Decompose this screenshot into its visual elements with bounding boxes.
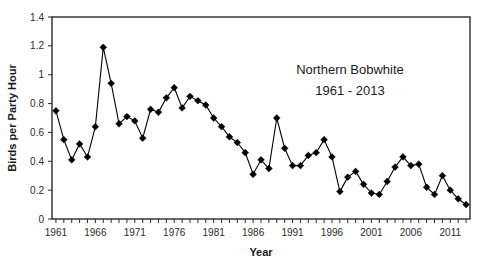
data-point-marker <box>131 117 138 124</box>
y-axis-tick-label: 0.8 <box>30 98 44 109</box>
data-point-marker <box>84 154 91 161</box>
data-point-marker <box>439 172 446 179</box>
data-point-marker <box>155 109 162 116</box>
data-point-marker <box>289 162 296 169</box>
y-axis-tick-label: 0 <box>38 214 44 225</box>
plot-area-frame <box>52 17 470 219</box>
y-axis-tick-label: 0.2 <box>30 185 44 196</box>
data-point-marker <box>60 136 67 143</box>
x-axis-tick-label: 1976 <box>163 227 186 238</box>
data-point-marker <box>108 80 115 87</box>
chart-container: 00.20.40.60.811.21.4 1961196619711976198… <box>0 0 488 267</box>
y-axis-title: Birds per Party Hour <box>6 63 18 171</box>
x-axis-title: Year <box>249 246 273 258</box>
data-point-marker <box>313 149 320 156</box>
data-point-marker <box>139 135 146 142</box>
x-axis-tick-label: 2001 <box>360 227 383 238</box>
data-point-marker <box>273 115 280 122</box>
x-axis-tick-label: 1966 <box>84 227 107 238</box>
series-markers <box>53 44 470 208</box>
data-point-marker <box>384 178 391 185</box>
bobwhite-line-chart: 00.20.40.60.811.21.4 1961196619711976198… <box>0 0 488 267</box>
data-point-marker <box>179 105 186 112</box>
x-axis-tick-label: 2011 <box>440 227 462 238</box>
annotation-year-range: 1961 - 2013 <box>315 83 384 98</box>
data-point-marker <box>329 154 336 161</box>
data-point-marker <box>195 97 202 104</box>
data-point-marker <box>250 171 257 178</box>
y-axis-tick-label: 1.2 <box>30 40 44 51</box>
data-point-marker <box>68 156 75 163</box>
data-point-marker <box>336 188 343 195</box>
y-axis-tick-label: 1 <box>38 69 44 80</box>
x-axis-tick-label: 2006 <box>400 227 423 238</box>
data-point-marker <box>76 141 83 148</box>
data-point-marker <box>321 136 328 143</box>
y-axis-tick-labels: 00.20.40.60.811.21.4 <box>30 12 44 225</box>
x-axis-tick-labels: 1961196619711976198119861991199620012006… <box>45 227 462 238</box>
data-point-marker <box>147 106 154 113</box>
data-point-marker <box>281 145 288 152</box>
x-axis-tick-label: 1991 <box>281 227 304 238</box>
x-axis-tick-label: 1971 <box>124 227 147 238</box>
x-axis-tick-label: 1981 <box>203 227 226 238</box>
data-point-marker <box>376 191 383 198</box>
x-axis-tick-label: 1996 <box>321 227 344 238</box>
annotation-species-name: Northern Bobwhite <box>296 62 404 77</box>
data-point-marker <box>187 93 194 100</box>
data-point-marker <box>415 161 422 168</box>
data-point-marker <box>92 123 99 130</box>
x-axis-tick-label: 1961 <box>45 227 68 238</box>
data-point-marker <box>53 107 60 114</box>
x-axis-tick-label: 1986 <box>242 227 265 238</box>
y-axis-tick-label: 0.6 <box>30 127 44 138</box>
y-axis-tick-label: 0.4 <box>30 156 44 167</box>
data-point-marker <box>202 102 209 109</box>
data-point-marker <box>100 44 107 51</box>
y-axis-tick-label: 1.4 <box>30 12 44 23</box>
